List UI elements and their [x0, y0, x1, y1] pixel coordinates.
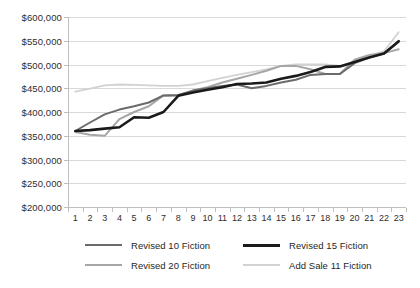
legend-item[interactable]: Revised 10 Fiction: [85, 238, 210, 252]
line-chart: $200,000$250,000$300,000$350,000$400,000…: [0, 0, 420, 288]
series-lines: [0, 0, 420, 232]
legend-item[interactable]: Revised 20 Fiction: [85, 258, 210, 272]
legend-label: Revised 15 Fiction: [289, 240, 368, 251]
chart-legend: Revised 10 FictionRevised 15 FictionRevi…: [0, 236, 420, 288]
legend-item[interactable]: Add Sale 11 Fiction: [243, 258, 372, 272]
legend-color-swatch: [85, 244, 122, 246]
legend-label: Revised 20 Fiction: [131, 260, 210, 271]
plot-area: $200,000$250,000$300,000$350,000$400,000…: [0, 0, 420, 232]
legend-color-swatch: [243, 264, 280, 266]
legend-label: Add Sale 11 Fiction: [289, 260, 372, 271]
legend-color-swatch: [85, 264, 122, 266]
legend-color-swatch: [243, 244, 280, 247]
series-line: [75, 32, 398, 91]
legend-item[interactable]: Revised 15 Fiction: [243, 238, 368, 252]
legend-label: Revised 10 Fiction: [131, 240, 210, 251]
